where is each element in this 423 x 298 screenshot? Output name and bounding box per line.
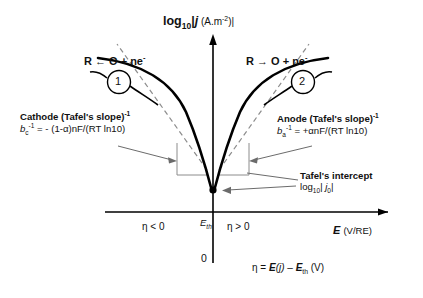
equilibrium-potential-label: Eth [200, 218, 212, 230]
tafel-intercept-value: log10| j0| [300, 181, 372, 194]
eta-positive-label: η > 0 [227, 221, 250, 233]
tafel-plot-figure: log10|j (A.m-2)| R ← O + ne- R → O + ne-… [0, 0, 423, 298]
cathode-slope-formula: bc-1 = - (1-α)nF/(RT ln10) [20, 122, 130, 137]
cathode-slope-annotation: Cathode (Tafel's slope)-1 bc-1 = - (1-α)… [20, 110, 130, 137]
reaction-cathodic-label: R ← O + ne- [84, 54, 146, 67]
reaction-anodic-label: R → O + ne- [246, 54, 308, 67]
plot-canvas [0, 0, 423, 298]
y-axis-label: log10|j (A.m-2)| [163, 14, 234, 31]
x-axis-label: E (V/RE) [333, 224, 372, 237]
origin-label: 0 [201, 252, 207, 264]
exchange-current-density-point [209, 186, 216, 193]
cathode-slope-title: Cathode (Tafel's slope)-1 [20, 110, 130, 122]
anode-slope-annotation: Anode (Tafel's slope)-1 ba-1 = +αnF/(RT … [277, 112, 379, 139]
tafel-intercept-annotation: Tafel's intercept log10| j0| [300, 170, 372, 194]
eta-negative-label: η < 0 [142, 221, 165, 233]
anode-slope-title: Anode (Tafel's slope)-1 [277, 112, 379, 124]
tafel-intercept-title: Tafel's intercept [300, 170, 372, 181]
overpotential-definition: η = E(j) – Eth (V) [252, 262, 324, 276]
anode-slope-formula: ba-1 = +αnF/(RT ln10) [277, 124, 379, 139]
marker-1-label: 1 [115, 75, 121, 88]
marker-2-label: 2 [299, 75, 305, 88]
x-axis [105, 208, 388, 215]
